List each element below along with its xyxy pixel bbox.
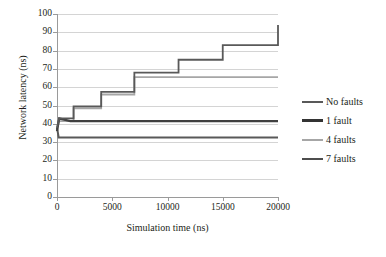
gridline-y bbox=[57, 51, 278, 52]
legend: No faults1 fault4 faults7 faults bbox=[302, 92, 384, 168]
y-tick-mark bbox=[53, 106, 57, 107]
legend-label: 7 faults bbox=[326, 153, 356, 164]
legend-item[interactable]: No faults bbox=[302, 92, 384, 111]
y-tick-label: 60 bbox=[26, 82, 52, 92]
y-tick-mark bbox=[53, 179, 57, 180]
x-tick-mark bbox=[57, 197, 58, 201]
x-tick-label: 0 bbox=[32, 202, 82, 212]
y-tick-mark bbox=[53, 32, 57, 33]
plot-area bbox=[57, 14, 278, 197]
x-tick-mark bbox=[168, 197, 169, 201]
y-tick-mark bbox=[53, 51, 57, 52]
y-tick-mark bbox=[53, 87, 57, 88]
gridline-y bbox=[57, 69, 278, 70]
x-tick-label: 10000 bbox=[143, 202, 193, 212]
gridline-y bbox=[57, 87, 278, 88]
y-tick-label: 40 bbox=[26, 119, 52, 129]
y-tick-label: 30 bbox=[26, 137, 52, 147]
y-tick-mark bbox=[53, 69, 57, 70]
gridline-y bbox=[57, 32, 278, 33]
chart-figure: 0102030405060708090100 05000100001500020… bbox=[0, 0, 386, 257]
gridline-y bbox=[57, 160, 278, 161]
y-axis-line bbox=[57, 14, 58, 198]
legend-item[interactable]: 4 faults bbox=[302, 130, 384, 149]
y-tick-label: 0 bbox=[26, 192, 52, 202]
y-tick-label: 70 bbox=[26, 64, 52, 74]
y-tick-label: 100 bbox=[26, 9, 52, 19]
y-tick-mark bbox=[53, 124, 57, 125]
legend-swatch-icon bbox=[302, 139, 323, 141]
legend-swatch-icon bbox=[302, 101, 323, 103]
y-tick-label: 80 bbox=[26, 46, 52, 56]
y-axis-title: Network latency (ns) bbox=[17, 23, 28, 173]
y-tick-label: 90 bbox=[26, 27, 52, 37]
x-axis-title: Simulation time (ns) bbox=[57, 222, 278, 233]
x-tick-mark bbox=[112, 197, 113, 201]
y-tick-mark bbox=[53, 160, 57, 161]
legend-item[interactable]: 1 fault bbox=[302, 111, 384, 130]
legend-item[interactable]: 7 faults bbox=[302, 149, 384, 168]
y-tick-label: 20 bbox=[26, 155, 52, 165]
gridline-y bbox=[57, 179, 278, 180]
y-tick-mark bbox=[53, 142, 57, 143]
x-tick-mark bbox=[278, 197, 279, 201]
legend-label: No faults bbox=[326, 96, 363, 107]
legend-label: 4 faults bbox=[326, 134, 356, 145]
gridline-y bbox=[57, 106, 278, 107]
y-tick-label: 50 bbox=[26, 101, 52, 111]
y-tick-label: 10 bbox=[26, 174, 52, 184]
x-tick-label: 5000 bbox=[87, 202, 137, 212]
x-tick-label: 20000 bbox=[253, 202, 303, 212]
y-tick-mark bbox=[53, 14, 57, 15]
legend-swatch-icon bbox=[302, 119, 323, 122]
legend-label: 1 fault bbox=[326, 115, 352, 126]
gridline-y bbox=[57, 142, 278, 143]
gridline-y bbox=[57, 14, 278, 15]
x-tick-label: 15000 bbox=[198, 202, 248, 212]
x-tick-mark bbox=[223, 197, 224, 201]
legend-swatch-icon bbox=[302, 158, 323, 160]
gridline-y bbox=[57, 124, 278, 125]
